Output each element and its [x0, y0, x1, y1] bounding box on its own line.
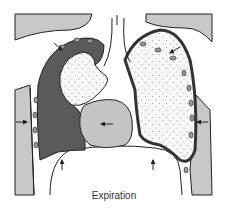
expiration-diagram — [0, 0, 228, 211]
shoulder-left — [15, 14, 92, 40]
chest-wall-left — [15, 85, 34, 195]
caption: Expiration — [0, 190, 228, 201]
